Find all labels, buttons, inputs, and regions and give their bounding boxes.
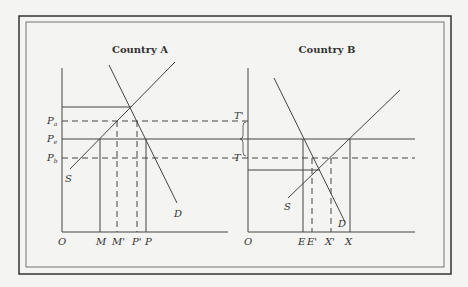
panel-title-b: Country B [299,44,356,55]
demand-label-a: D [173,208,182,219]
supply-curve-b [288,90,400,198]
panel-country-b: Country B T' T S D O E E' X' X [234,44,415,247]
origin-label-a: O [58,236,66,247]
supply-curve-a [70,62,175,169]
qty-label-p: P [144,236,152,247]
demand-label-b: D [337,218,346,229]
inner-frame [26,22,444,267]
panel-title-a: Country A [112,44,168,55]
tariff-label-t: T [234,152,242,163]
supply-label-a: S [65,173,72,184]
outer-frame [19,16,451,274]
origin-label-b: O [244,236,252,247]
qty-label-e: E [297,236,306,247]
qty-label-p-prime: P' [131,236,141,247]
qty-label-e-prime: E' [306,236,317,247]
price-label-pa: Pa [46,115,58,127]
supply-label-b: S [284,201,291,212]
price-label-pe: Pe [46,133,58,145]
panel-country-a: Country A Pa Pe Pb S D O M M' P' P [46,44,415,247]
demand-curve-a [109,65,177,203]
two-country-trade-diagram: Country A Pa Pe Pb S D O M M' P' P [0,0,468,287]
qty-label-m-prime: M' [111,236,125,247]
qty-label-m: M [95,236,107,247]
tariff-label-t-prime: T' [234,110,243,121]
qty-label-x-prime: X' [324,236,335,247]
qty-label-x: X [344,236,353,247]
price-label-pb: Pb [46,152,58,164]
